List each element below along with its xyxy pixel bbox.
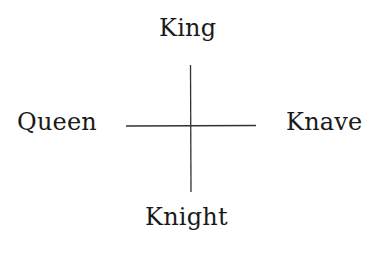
cross-diagram: King Queen Knave Knight [0,0,382,253]
vertical-line [191,65,192,192]
cross-lines [0,0,382,253]
horizontal-line [126,126,256,127]
